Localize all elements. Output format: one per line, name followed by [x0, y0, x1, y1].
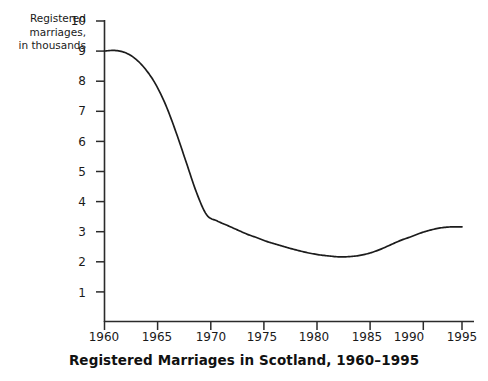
y-tick-label-3: 3: [64, 226, 86, 238]
x-tick-label-1990: 1990: [385, 331, 433, 343]
y-tick-label-2: 2: [64, 256, 86, 268]
x-tick-label-1985: 1985: [343, 331, 391, 343]
data-series-line: [105, 50, 463, 257]
y-tick-marks: [96, 21, 105, 292]
y-tick-label-7: 7: [64, 105, 86, 117]
x-tick-label-1965: 1965: [133, 331, 181, 343]
x-tick-label-1975: 1975: [238, 331, 286, 343]
x-tick-label-1960: 1960: [80, 331, 128, 343]
plot-area: [0, 0, 488, 381]
y-tick-label-10: 10: [64, 15, 86, 27]
chart-figure: Registered marriages, in thousands 10 9 …: [0, 0, 488, 381]
y-tick-label-6: 6: [64, 136, 86, 148]
y-tick-label-8: 8: [64, 75, 86, 87]
y-tick-label-1: 1: [64, 287, 86, 299]
y-tick-label-5: 5: [64, 166, 86, 178]
chart-title: Registered Marriages in Scotland, 1960–1…: [0, 352, 488, 368]
x-tick-marks: [105, 321, 463, 330]
x-tick-label-1970: 1970: [187, 331, 235, 343]
x-tick-label-1995: 1995: [438, 331, 486, 343]
y-tick-label-9: 9: [64, 45, 86, 57]
y-tick-label-4: 4: [64, 196, 86, 208]
x-tick-label-1980: 1980: [290, 331, 338, 343]
